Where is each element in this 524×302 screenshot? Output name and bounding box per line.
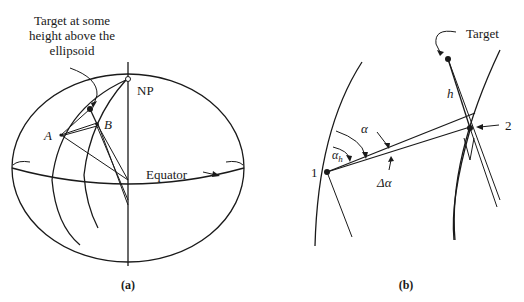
station-2-pointer-arrowhead bbox=[476, 124, 483, 130]
point-a-label: A bbox=[43, 128, 52, 143]
panel-a: Target at some height above the ellipsoi… bbox=[12, 13, 244, 292]
station-1-label: 1 bbox=[311, 165, 318, 180]
north-pole-label: NP bbox=[137, 83, 154, 98]
line-a-b-2 bbox=[61, 126, 97, 136]
target-vertical-right bbox=[448, 59, 500, 200]
line-a-target bbox=[61, 109, 90, 135]
meridian-station-2-left bbox=[453, 130, 470, 240]
station-2-label: 2 bbox=[505, 118, 512, 133]
delta-alpha-pointer-arrowhead bbox=[388, 156, 394, 162]
line-of-sight-to-2 bbox=[327, 127, 470, 172]
north-pole-marker bbox=[126, 77, 131, 82]
normal-station-1 bbox=[327, 172, 352, 237]
line-of-sight-to-target bbox=[327, 113, 475, 172]
line-a-b-1 bbox=[61, 123, 97, 135]
geodesy-figure: Target at some height above the ellipsoi… bbox=[0, 0, 524, 302]
target-label-line-1: Target at some bbox=[34, 13, 110, 28]
meridian-outer bbox=[52, 80, 126, 245]
alpha-label: α bbox=[361, 121, 369, 136]
equator-back-right bbox=[226, 161, 243, 165]
caption-a: (a) bbox=[121, 278, 135, 292]
station-1-dot bbox=[324, 169, 330, 175]
target-curved-pointer bbox=[436, 31, 456, 52]
equator-back-left bbox=[13, 161, 30, 165]
point-b-label: B bbox=[104, 117, 112, 132]
line-a-center bbox=[61, 135, 128, 180]
station-2-dot bbox=[467, 125, 473, 131]
line-target-b bbox=[90, 109, 97, 124]
target-label-line-2: height above the bbox=[29, 28, 115, 43]
meridian-station-2-right bbox=[454, 50, 500, 240]
target-curved-pointer-arrowhead bbox=[437, 50, 444, 56]
target-pointer bbox=[70, 68, 97, 104]
target-label-line-3: ellipsoid bbox=[50, 43, 95, 58]
caption-b: (b) bbox=[399, 278, 414, 292]
panel-b: Target h 2 1 α αh Δα (b) bbox=[311, 26, 512, 292]
equator-label: Equator bbox=[146, 167, 188, 182]
target-label: Target bbox=[466, 26, 499, 41]
alpha-h-arc-arrowhead bbox=[346, 155, 352, 162]
line-b-center-1 bbox=[97, 124, 128, 180]
delta-alpha-label: Δα bbox=[376, 175, 393, 190]
height-label: h bbox=[447, 86, 454, 101]
